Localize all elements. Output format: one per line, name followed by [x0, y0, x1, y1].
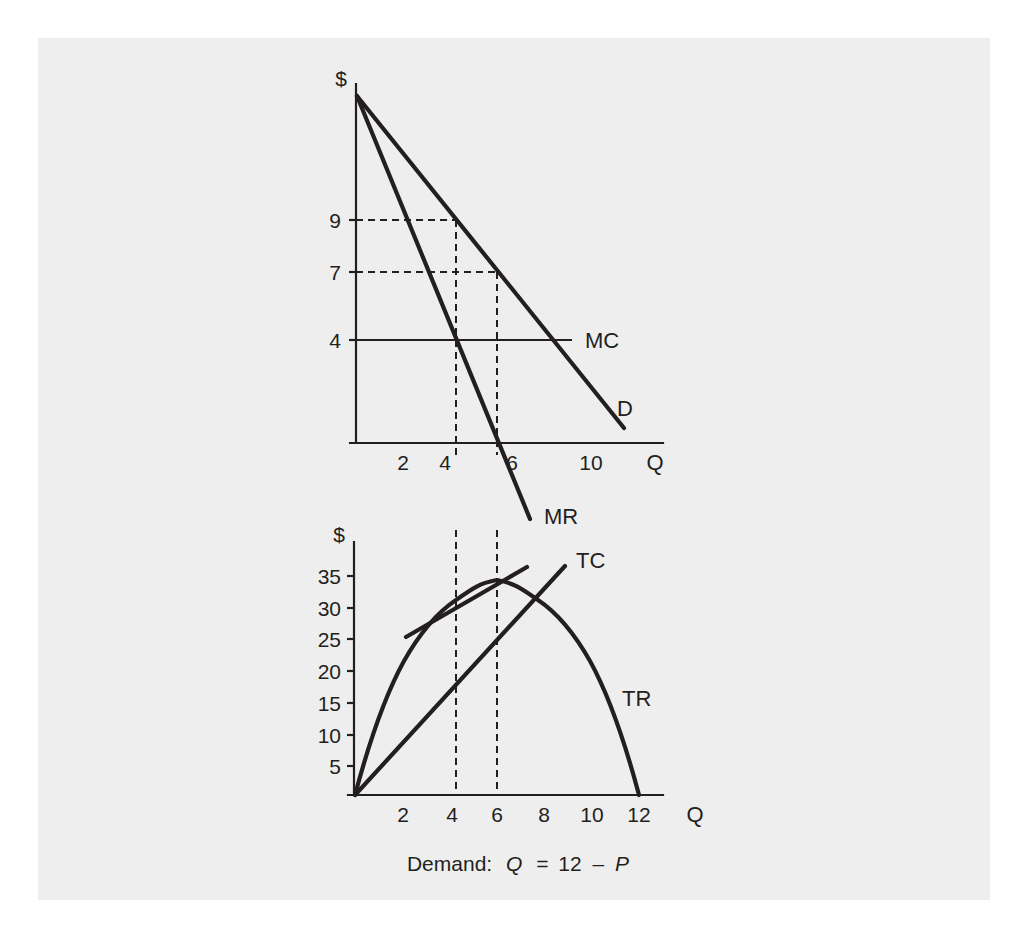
bottom-chart-ylabel-10: 10 — [318, 724, 341, 747]
top-chart-mc-label: MC — [585, 328, 619, 353]
caption-variable-q: Q — [506, 852, 522, 875]
top-chart-y-axis-title: $ — [335, 67, 347, 90]
top-chart-xlabel-10: 10 — [579, 451, 602, 474]
bottom-chart: $ 35 30 25 20 15 10 5 2 4 6 8 10 12 Q TC… — [318, 523, 704, 827]
bottom-chart-ylabel-35: 35 — [318, 565, 341, 588]
top-chart-x-axis-title: Q — [646, 450, 663, 475]
bottom-chart-xlabel-2: 2 — [397, 803, 409, 826]
top-chart-demand-curve — [357, 96, 624, 428]
bottom-chart-ylabel-25: 25 — [318, 628, 341, 651]
bottom-chart-ylabel-15: 15 — [318, 692, 341, 715]
top-chart-xlabel-4: 4 — [439, 451, 451, 474]
bottom-chart-ylabel-30: 30 — [318, 597, 341, 620]
top-chart-xlabel-6: 6 — [506, 451, 518, 474]
bottom-chart-xlabel-6: 6 — [491, 803, 503, 826]
caption-constant: 12 — [558, 852, 581, 875]
figure-root: $ 9 7 4 2 4 6 10 Q MC D MR — [0, 0, 1032, 935]
bottom-chart-tr-label: TR — [622, 686, 651, 711]
top-chart: $ 9 7 4 2 4 6 10 Q MC D MR — [329, 67, 663, 529]
bottom-chart-x-axis-title: Q — [686, 802, 703, 827]
top-chart-ylabel-7: 7 — [329, 261, 341, 284]
bottom-chart-tc-curve — [355, 566, 565, 795]
bottom-chart-y-axis-title: $ — [333, 523, 345, 546]
economics-figure: $ 9 7 4 2 4 6 10 Q MC D MR — [0, 0, 1032, 935]
bottom-chart-xlabel-12: 12 — [627, 803, 650, 826]
top-chart-xlabel-2: 2 — [397, 451, 409, 474]
top-chart-ylabel-4: 4 — [329, 329, 341, 352]
bottom-chart-xlabel-10: 10 — [580, 803, 603, 826]
caption-prefix: Demand: — [407, 852, 492, 875]
top-chart-ylabel-9: 9 — [329, 209, 341, 232]
bottom-chart-xlabel-8: 8 — [538, 803, 550, 826]
bottom-chart-ylabel-20: 20 — [318, 660, 341, 683]
caption-variable-p: P — [615, 852, 629, 875]
bottom-chart-ylabel-5: 5 — [329, 755, 341, 778]
top-chart-mr-label: MR — [544, 504, 578, 529]
caption-equals: = — [536, 852, 548, 875]
bottom-chart-tc-label: TC — [576, 548, 605, 573]
caption-line: Demand: Q = 12 – P — [407, 852, 629, 875]
caption-minus: – — [593, 852, 605, 875]
top-chart-demand-label: D — [617, 396, 633, 421]
figure-caption: Demand: Q = 12 – P — [407, 852, 629, 875]
bottom-chart-xlabel-4: 4 — [446, 803, 458, 826]
